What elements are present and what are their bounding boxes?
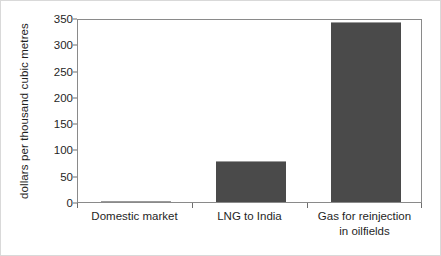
- bar: [101, 201, 171, 203]
- bar: [216, 161, 286, 202]
- y-axis-tick-label: 300: [37, 39, 73, 51]
- y-axis-tick-label: 200: [37, 92, 73, 104]
- bar: [331, 22, 401, 202]
- x-axis-tick-mark: [77, 203, 78, 208]
- x-axis-tick-mark: [192, 203, 193, 208]
- x-axis-category-label-line: in oilfields: [307, 224, 422, 239]
- y-axis-tick-label: 100: [37, 144, 73, 156]
- x-axis-tick-mark: [307, 203, 308, 208]
- x-axis-category-labels: Domestic marketLNG to IndiaGas for reinj…: [77, 209, 422, 249]
- x-axis-category-label-line: Domestic market: [77, 209, 192, 224]
- plot-area: [77, 19, 422, 203]
- x-axis-category-label: Domestic market: [77, 209, 192, 224]
- y-axis-tick-label: 50: [37, 171, 73, 183]
- y-axis-tick-label: 0: [37, 197, 73, 209]
- y-axis-tick-label: 250: [37, 66, 73, 78]
- bars-container: [78, 20, 421, 202]
- y-axis-title: dollars per thousand cubic metres: [13, 19, 35, 203]
- x-axis-tick-mark: [421, 203, 422, 208]
- y-axis-tick-labels: 050100150200250300350: [37, 19, 73, 203]
- y-axis-tick-label: 150: [37, 118, 73, 130]
- y-axis-tick-label: 350: [37, 13, 73, 25]
- chart-figure: dollars per thousand cubic metres 050100…: [0, 0, 441, 256]
- x-axis-category-label: LNG to India: [192, 209, 307, 224]
- x-axis-category-label-line: LNG to India: [192, 209, 307, 224]
- x-axis-category-label-line: Gas for reinjection: [307, 209, 422, 224]
- x-axis-category-label: Gas for reinjectionin oilfields: [307, 209, 422, 239]
- x-axis-tick-marks: [77, 203, 422, 208]
